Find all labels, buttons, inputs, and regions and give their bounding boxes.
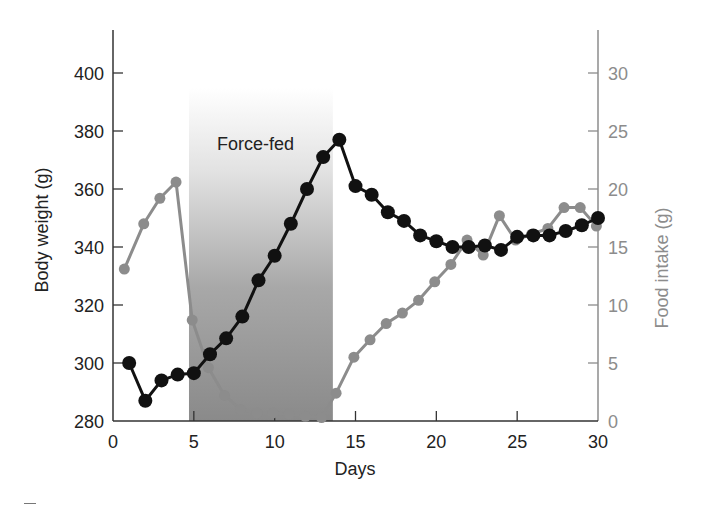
body-weight-point [526,228,540,242]
body-weight-point [429,234,443,248]
food-intake-point [559,202,570,213]
body-weight-point [252,273,266,287]
body-weight-point [171,368,185,382]
body-weight-point [122,356,136,370]
y-tick-label: 360 [74,180,104,200]
x-tick-label: 25 [507,432,527,452]
body-weight-point [155,373,169,387]
food-intake-point [397,308,408,319]
x-tick-label: 15 [345,432,365,452]
body-weight-point [397,214,411,228]
y-axis-title: Body weight (g) [32,167,52,292]
food-intake-point [429,276,440,287]
food-intake-point [348,352,359,363]
left-y-axis: 280300320340360380400 [74,30,123,432]
x-tick-label: 0 [108,432,118,452]
body-weight-point [332,133,346,147]
food-intake-point [171,177,182,188]
body-weight-point [462,240,476,254]
food-intake-point [381,318,392,329]
x-tick-label: 10 [265,432,285,452]
body-weight-point [138,394,152,408]
body-weight-point [559,224,573,238]
y2-tick-label: 30 [608,64,628,84]
x-axis-title: Days [334,459,375,479]
food-intake-point [203,362,214,373]
food-intake-point [445,259,456,270]
footer-mark [24,503,36,504]
food-intake-point [187,315,198,326]
body-weight-point [365,188,379,202]
y2-tick-label: 25 [608,122,628,142]
y-tick-label: 320 [74,296,104,316]
x-tick-label: 20 [426,432,446,452]
x-tick-label: 30 [588,432,608,452]
y-tick-label: 380 [74,122,104,142]
food-intake-point [219,390,230,401]
y-tick-label: 340 [74,238,104,258]
food-intake-point [575,202,586,213]
body-weight-point [510,230,524,244]
food-intake-point [365,334,376,345]
body-weight-point [575,218,589,232]
body-weight-point [478,239,492,253]
y2-axis-title: Food intake (g) [652,207,672,328]
body-weight-point [187,366,201,380]
food-intake-point [284,409,295,420]
body-weight-point [219,331,233,345]
food-intake-point [268,407,279,418]
food-intake-point [494,210,505,221]
food-intake-point [251,407,262,418]
food-intake-point [300,411,311,422]
body-weight-point [591,211,605,225]
body-weight-point [494,243,508,257]
food-intake-point [119,264,130,275]
body-weight-point [203,347,217,361]
body-weight-point [268,249,282,263]
y-tick-label: 400 [74,64,104,84]
body-weight-point [300,182,314,196]
line-chart: Force-fed 280300320340360380400 05101520… [0,0,705,506]
food-intake-point [331,388,342,399]
food-intake-point [138,218,149,229]
body-weight-point [316,150,330,164]
body-weight-point [381,205,395,219]
food-intake-point [235,404,246,415]
body-weight-point [543,228,557,242]
body-weight-point [413,228,427,242]
y-tick-label: 280 [74,412,104,432]
body-weight-point [235,310,249,324]
y2-tick-label: 5 [608,354,618,374]
y2-tick-label: 0 [608,412,618,432]
body-weight-point [284,217,298,231]
body-weight-point [349,179,363,193]
force-fed-label: Force-fed [217,134,294,154]
x-axis: 051015202530 [108,411,608,452]
food-intake-point [413,295,424,306]
x-tick-label: 5 [189,432,199,452]
y-tick-label: 300 [74,354,104,374]
food-intake-point [316,412,327,423]
food-intake-point [154,193,165,204]
y2-tick-label: 15 [608,238,628,258]
y2-tick-label: 10 [608,296,628,316]
body-weight-point [446,240,460,254]
y2-tick-label: 20 [608,180,628,200]
